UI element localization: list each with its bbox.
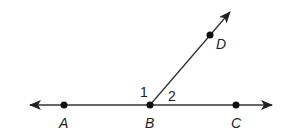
- ray-bd: [150, 12, 230, 105]
- label-c: C: [231, 115, 242, 131]
- label-a: A: [58, 115, 68, 131]
- label-d: D: [216, 36, 226, 52]
- angle-2-label: 2: [168, 88, 176, 104]
- point-d: [207, 32, 214, 39]
- angle-diagram: A B C D 1 2: [0, 0, 294, 135]
- label-b: B: [145, 115, 154, 131]
- point-c: [233, 102, 240, 109]
- point-a: [61, 102, 68, 109]
- diagram-canvas: A B C D 1 2: [0, 0, 294, 135]
- point-b: [147, 102, 154, 109]
- angle-1-label: 1: [140, 84, 148, 100]
